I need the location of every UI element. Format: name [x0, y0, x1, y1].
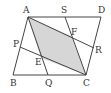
label-f: F: [71, 27, 77, 37]
label-c: C: [83, 78, 90, 88]
label-r: R: [95, 45, 102, 55]
label-d: D: [98, 5, 105, 15]
label-e: E: [35, 57, 42, 67]
label-q: Q: [45, 78, 52, 88]
label-s: S: [61, 5, 67, 15]
label-p: P: [13, 39, 19, 49]
geometry-diagram: A S D F P R E B Q C: [0, 0, 111, 93]
label-a: A: [22, 5, 30, 15]
label-b: B: [10, 78, 17, 88]
